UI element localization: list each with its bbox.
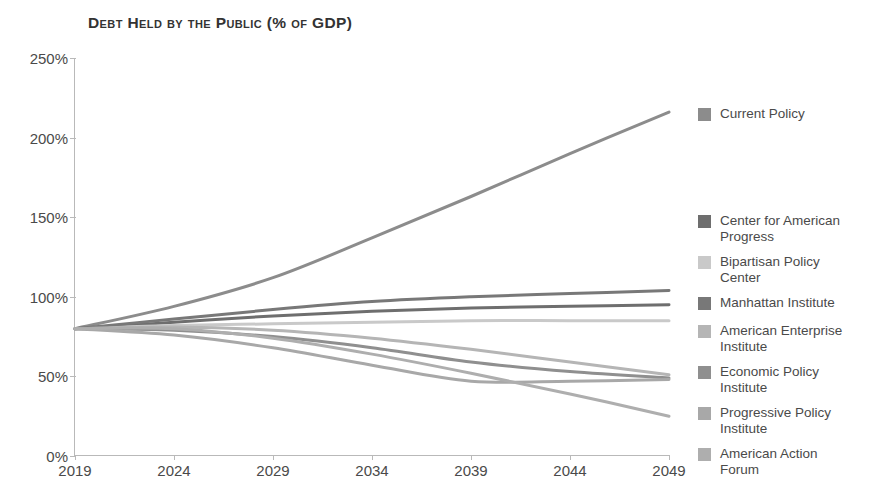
legend-swatch-icon [698,366,711,379]
legend-item[interactable]: American Action Forum [698,446,884,477]
x-axis-tick-label: 2044 [553,462,586,479]
x-axis-tick-label: 2049 [652,462,685,479]
x-axis-tick-label: 2039 [454,462,487,479]
legend-item-label: Manhattan Institute [720,295,835,311]
legend-swatch-icon [698,325,711,338]
legend-item[interactable]: American Enterprise Institute [698,323,884,354]
chart-legend: Current PolicyCenter for American Progre… [698,58,888,458]
series-line [75,112,669,329]
legend-swatch-icon [698,215,711,228]
legend-swatch-icon [698,448,711,461]
legend-item[interactable]: Center for American Progress [698,213,884,244]
legend-item-label: Economic Policy Institute [720,364,819,395]
legend-item[interactable]: Current Policy [698,106,884,122]
legend-swatch-icon [698,407,711,420]
legend-item-label: American Action Forum [720,446,818,477]
series-lines [75,58,669,456]
chart-figure: Debt Held by the Public (% of GDP) 0%50%… [0,0,889,499]
plot-area [75,58,669,456]
x-axis-tick-label: 2024 [157,462,190,479]
legend-item[interactable]: Manhattan Institute [698,295,884,311]
legend-item-label: American Enterprise Institute [720,323,842,354]
legend-item-label: Bipartisan Policy Center [720,254,820,285]
legend-item[interactable]: Progressive Policy Institute [698,405,884,436]
x-axis-tick-label: 2034 [355,462,388,479]
legend-item[interactable]: Economic Policy Institute [698,364,884,395]
legend-item-label: Current Policy [720,106,805,122]
legend-item[interactable]: Bipartisan Policy Center [698,254,884,285]
legend-swatch-icon [698,297,711,310]
legend-swatch-icon [698,256,711,269]
x-axis-tick-label: 2029 [256,462,289,479]
legend-item-label: Progressive Policy Institute [720,405,831,436]
legend-item-label: Center for American Progress [720,213,840,244]
legend-swatch-icon [698,108,711,121]
x-axis-tick-label: 2019 [58,462,91,479]
